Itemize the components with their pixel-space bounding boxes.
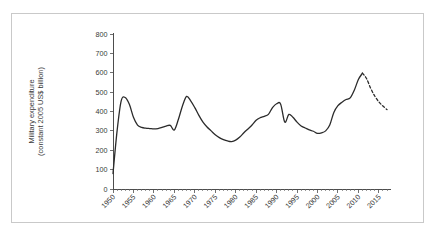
y-tick-label-0: 0 — [104, 185, 108, 194]
y-tick-label-400: 400 — [96, 107, 108, 116]
y-tick-label-300: 300 — [96, 126, 108, 135]
x-tick-label-1995: 1995 — [283, 193, 301, 211]
y-axis-label-line1: Military expenditure — [27, 79, 36, 143]
x-tick-label-1955: 1955 — [120, 193, 138, 211]
y-tick-label-800: 800 — [96, 30, 108, 39]
data-series-1 — [113, 73, 362, 173]
y-tick-label-200: 200 — [96, 146, 108, 155]
x-tick-label-2000: 2000 — [304, 193, 322, 211]
x-tick-label-1975: 1975 — [201, 193, 219, 211]
y-tick-label-100: 100 — [96, 165, 108, 174]
figure-container: 0100200300400500600700800195019551960196… — [0, 0, 437, 236]
y-tick-label-500: 500 — [96, 88, 108, 97]
line-chart: 0100200300400500600700800195019551960196… — [12, 14, 423, 222]
x-tick-label-1985: 1985 — [242, 193, 260, 211]
x-tick-label-1965: 1965 — [161, 193, 179, 211]
x-tick-label-1990: 1990 — [263, 193, 281, 211]
y-tick-label-700: 700 — [96, 49, 108, 58]
chart-frame: 0100200300400500600700800195019551960196… — [11, 13, 424, 223]
x-tick-label-1970: 1970 — [181, 193, 199, 211]
x-tick-label-2005: 2005 — [324, 193, 342, 211]
y-tick-label-600: 600 — [96, 68, 108, 77]
data-series-2 — [362, 73, 387, 109]
x-tick-label-1960: 1960 — [140, 193, 158, 211]
x-tick-label-1950: 1950 — [99, 193, 117, 211]
y-axis-label-line2: (constant 2005 US$ billion) — [36, 67, 45, 156]
x-tick-label-1980: 1980 — [222, 193, 240, 211]
x-tick-label-2010: 2010 — [345, 193, 363, 211]
x-tick-label-2015: 2015 — [365, 193, 383, 211]
y-axis-label: Military expenditure(constant 2005 US$ b… — [27, 67, 46, 156]
